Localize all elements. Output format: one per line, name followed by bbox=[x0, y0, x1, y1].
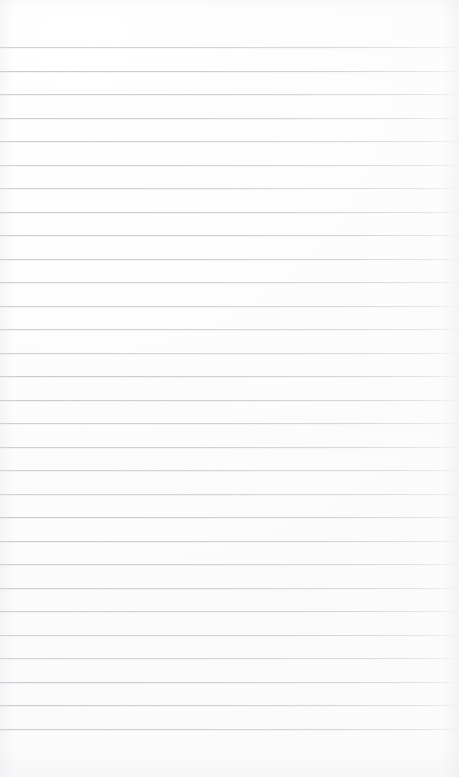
ruled-line bbox=[0, 494, 459, 495]
ruled-line bbox=[0, 165, 459, 166]
ruled-line-group bbox=[0, 0, 459, 777]
ruled-line bbox=[0, 71, 459, 72]
ruled-line bbox=[0, 376, 459, 377]
ruled-line bbox=[0, 118, 459, 119]
ruled-line bbox=[0, 447, 459, 448]
ruled-line bbox=[0, 188, 459, 189]
ruled-line bbox=[0, 353, 459, 354]
ruled-line bbox=[0, 541, 459, 542]
ruled-line bbox=[0, 141, 459, 142]
ruled-line bbox=[0, 47, 459, 48]
ruled-line bbox=[0, 611, 459, 612]
ruled-line bbox=[0, 705, 459, 706]
ruled-line bbox=[0, 658, 459, 659]
ruled-line bbox=[0, 588, 459, 589]
ruled-line bbox=[0, 400, 459, 401]
ruled-line bbox=[0, 94, 459, 95]
ruled-line bbox=[0, 470, 459, 471]
ruled-line bbox=[0, 423, 459, 424]
ruled-line bbox=[0, 259, 459, 260]
ruled-paper-page bbox=[0, 0, 459, 777]
ruled-line bbox=[0, 564, 459, 565]
ruled-line bbox=[0, 729, 459, 730]
ruled-line bbox=[0, 235, 459, 236]
ruled-line bbox=[0, 329, 459, 330]
ruled-line bbox=[0, 212, 459, 213]
ruled-line bbox=[0, 306, 459, 307]
ruled-line bbox=[0, 517, 459, 518]
ruled-line bbox=[0, 282, 459, 283]
ruled-line bbox=[0, 635, 459, 636]
ruled-line bbox=[0, 682, 459, 683]
